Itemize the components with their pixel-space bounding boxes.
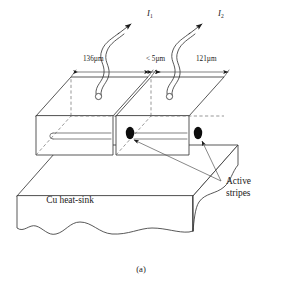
current-label-1: I1 <box>146 8 153 19</box>
heat-sink-front-face <box>17 196 193 234</box>
laser-bar-heatsink-diagram: I1 I2 136µm < 5µm 121µm Cu heat-sink Act… <box>0 0 283 289</box>
active-stripes-label-line2: stripes <box>226 188 251 198</box>
wire-bond-pad-2 <box>166 93 172 99</box>
active-stripes-label-line1: Active <box>226 176 251 186</box>
dimension-label-left-bar: 136µm <box>83 55 104 63</box>
wire-bond-pad-1 <box>95 93 101 99</box>
current-label-2: I2 <box>217 8 224 19</box>
active-stripe-marker-right <box>194 127 202 139</box>
figure-caption: (a) <box>136 264 146 274</box>
active-stripe-marker-left <box>126 127 134 139</box>
heat-sink-label: Cu heat-sink <box>46 195 94 205</box>
dimension-label-gap: < 5µm <box>146 55 166 63</box>
heat-sink-block <box>17 145 238 234</box>
dimension-label-right-bar: 121µm <box>196 55 217 63</box>
left-bar-front-face <box>36 116 113 155</box>
dimension-lines <box>71 70 229 77</box>
